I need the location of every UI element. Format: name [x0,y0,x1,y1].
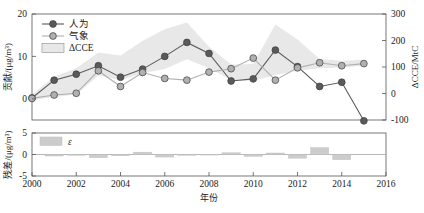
residual-bar [244,155,262,157]
data-point [51,77,58,84]
data-point [272,77,279,84]
x-ticklabel: 2016 [377,179,396,189]
y-axis-title-right: ΔCCE/MtC [410,46,420,88]
data-point [29,95,36,102]
legend: 人为气象ΔCCE [42,18,94,53]
data-point [73,90,80,97]
y-ticklabel-residual: 0 [22,150,27,160]
y-ticklabel-right: 100 [391,62,406,72]
data-point [206,50,213,57]
data-point [250,75,257,82]
data-point [161,75,168,82]
data-point [250,55,257,62]
y-axis-title-residual: 残差/(μg/m³) [2,130,13,178]
chart-canvas: 01020-1000100200300人为气象ΔCCE贡献/(μg/m³)ΔCC… [0,0,424,213]
x-ticklabel: 2010 [244,179,263,189]
residual-bar [134,152,152,154]
residual-bar [45,155,63,157]
legend-label-0: 人为 [69,18,89,29]
data-point [139,69,146,76]
y-axis-title-left: 贡献/(μg/m³) [2,43,13,91]
legend-marker-1 [50,33,57,40]
x-ticklabel: 2002 [67,179,86,189]
residual-bar [89,155,107,158]
x-ticklabel: 2006 [155,179,174,189]
data-point [338,62,345,69]
y-ticklabel-right: 0 [391,89,396,99]
residual-bar [266,153,284,155]
x-ticklabel: 2008 [200,179,219,189]
y-ticklabel-residual: 5 [22,128,27,138]
data-point [294,64,301,71]
residual-bar [222,153,240,155]
data-point [51,92,58,99]
data-point [316,59,323,66]
y-ticklabel-right: -100 [391,115,409,125]
legend-label-1: 气象 [69,30,89,41]
residual-bar [333,155,351,160]
residual-bar [67,155,85,156]
residual-legend-swatch [40,137,62,146]
y-ticklabel-right: 300 [391,9,406,19]
x-ticklabel: 2012 [288,179,307,189]
data-point [117,83,124,90]
y-ticklabel-right: 200 [391,36,406,46]
y-ticklabel-left: 20 [18,9,28,19]
data-point [206,69,213,76]
top-panel: 01020-1000100200300人为气象ΔCCE贡献/(μg/m³)ΔCC… [2,9,420,125]
data-point [183,39,190,46]
data-point [73,71,80,78]
x-axis-title: 年份 [200,192,218,203]
y-ticklabel-left: 0 [22,94,27,104]
data-point [183,77,190,84]
residual-bar [178,155,196,156]
x-ticklabel: 2000 [23,179,42,189]
residual-bar [311,148,329,155]
data-point [360,60,367,67]
legend-label-band: ΔCCE [69,43,94,53]
data-point [161,53,168,60]
legend-marker-0 [50,21,57,28]
data-point [228,65,235,72]
data-point [95,67,102,74]
x-ticklabel: 2014 [332,179,351,189]
chart-figure: 01020-1000100200300人为气象ΔCCE贡献/(μg/m³)ΔCC… [0,0,424,213]
residual-bar [111,155,129,156]
data-point [117,74,124,81]
legend-swatch-band [42,44,64,53]
data-point [316,83,323,90]
x-ticklabel: 2004 [111,179,130,189]
residual-bar [288,155,306,159]
data-point [360,117,367,124]
residual-bar [200,154,218,155]
data-point [228,78,235,85]
residual-panel: -505ε残差/(μg/m³)2000200220042006200820102… [2,128,396,203]
data-point [338,79,345,86]
residual-legend-label: ε [68,137,72,147]
residual-bar [156,155,174,158]
data-point [272,47,279,54]
y-ticklabel-left: 10 [18,52,28,62]
